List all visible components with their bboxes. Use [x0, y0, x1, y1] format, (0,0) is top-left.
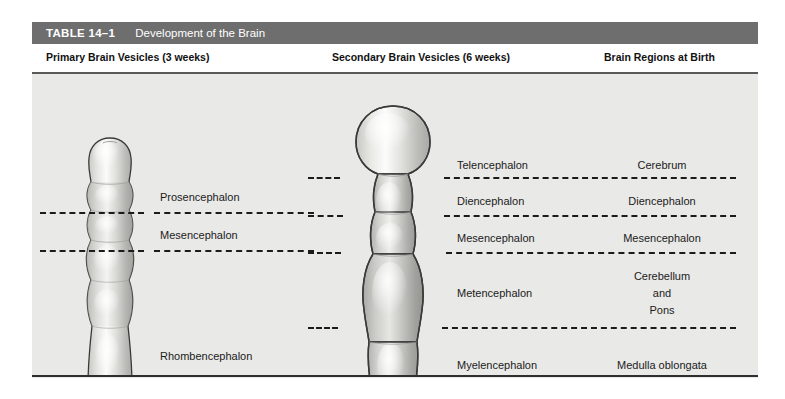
table-card: TABLE 14–1 Development of the Brain Prim…	[32, 22, 758, 378]
label-prosencephalon: Prosencephalon	[160, 191, 240, 203]
table-title: Development of the Brain	[135, 27, 265, 39]
column-header-brain-regions-at-birth: Brain Regions at Birth	[604, 51, 715, 63]
divider-metencephalon-myelencephalon-left	[308, 327, 338, 329]
primary-brain-vesicle-diagram	[70, 134, 150, 375]
column-header-row: Primary Brain Vesicles (3 weeks) Seconda…	[32, 44, 758, 72]
label-medulla-oblongata: Medulla oblongata	[617, 359, 707, 371]
label-cerebellum: Cerebellum	[634, 270, 690, 282]
illustration-plate: Prosencephalon Mesencephalon Rhombenceph…	[32, 74, 758, 375]
divider-mesencephalon-metencephalon-left	[308, 252, 341, 254]
column-header-secondary-brain-vesicles: Secondary Brain Vesicles (6 weeks)	[332, 51, 510, 63]
label-diencephalon-secondary: Diencephalon	[457, 195, 524, 207]
divider-primary-mesencephalon-rhombencephalon	[40, 250, 144, 252]
label-mesencephalon-primary: Mesencephalon	[160, 229, 238, 241]
label-pons: Pons	[649, 304, 674, 316]
label-mesencephalon-secondary: Mesencephalon	[457, 232, 535, 244]
bottom-divider-rule	[32, 375, 758, 377]
divider-mesencephalon-metencephalon	[446, 252, 736, 254]
label-myelencephalon: Myelencephalon	[457, 359, 537, 371]
label-telencephalon: Telencephalon	[457, 159, 528, 171]
divider-diencephalon-mesencephalon	[444, 215, 736, 217]
divider-primary-prosencephalon-mesencephalon-right	[154, 212, 314, 214]
divider-primary-prosencephalon-mesencephalon	[40, 212, 144, 214]
label-mesencephalon-birth: Mesencephalon	[623, 232, 701, 244]
label-diencephalon-birth: Diencephalon	[628, 195, 695, 207]
divider-telencephalon-diencephalon	[444, 177, 736, 179]
divider-primary-mesencephalon-rhombencephalon-right	[154, 250, 314, 252]
table-title-bar: TABLE 14–1 Development of the Brain	[32, 22, 758, 44]
secondary-brain-vesicle-diagram	[338, 102, 448, 375]
divider-diencephalon-mesencephalon-left	[308, 215, 343, 217]
label-cerebellum-pons-conjunction: and	[653, 287, 671, 299]
label-cerebrum: Cerebrum	[638, 159, 687, 171]
table-number: TABLE 14–1	[46, 27, 115, 39]
label-rhombencephalon: Rhombencephalon	[160, 350, 252, 362]
column-header-primary-brain-vesicles: Primary Brain Vesicles (3 weeks)	[46, 51, 209, 63]
divider-metencephalon-myelencephalon	[442, 327, 736, 329]
divider-telencephalon-diencephalon-left	[308, 177, 340, 179]
label-metencephalon: Metencephalon	[457, 287, 532, 299]
